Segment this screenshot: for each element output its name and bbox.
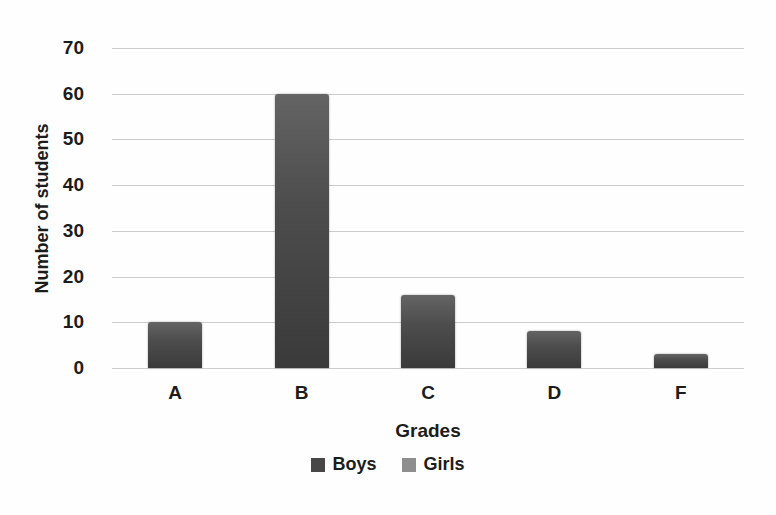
legend-swatch-boys — [311, 458, 325, 472]
y-tick-label-30: 30 — [63, 219, 84, 241]
y-tick-label-70: 70 — [63, 37, 84, 59]
x-tick-label-b: B — [295, 382, 309, 404]
y-tick-label-0: 0 — [73, 357, 84, 379]
bar-a — [148, 322, 202, 368]
plot-area — [112, 48, 744, 368]
bar-b — [275, 94, 329, 368]
gridline-y-60 — [112, 94, 744, 95]
bar-c — [401, 295, 455, 368]
legend-label-girls: Girls — [423, 454, 464, 475]
gridline-y-20 — [112, 277, 744, 278]
gridline-y-50 — [112, 139, 744, 140]
x-tick-label-f: F — [675, 382, 687, 404]
x-tick-label-c: C — [421, 382, 435, 404]
legend-item-boys: Boys — [311, 454, 376, 475]
gridline-y-30 — [112, 231, 744, 232]
y-tick-label-50: 50 — [63, 128, 84, 150]
x-axis-title: Grades — [112, 420, 744, 442]
y-tick-label-40: 40 — [63, 174, 84, 196]
y-tick-label-20: 20 — [63, 265, 84, 287]
legend-swatch-girls — [402, 458, 416, 472]
y-tick-label-10: 10 — [63, 311, 84, 333]
bar-d — [527, 331, 581, 368]
y-axis-ticks: 010203040506070 — [0, 48, 98, 368]
chart-legend: BoysGirls — [0, 454, 776, 475]
x-axis-labels: ABCDF — [112, 382, 744, 410]
gridline-y-0 — [112, 368, 744, 369]
y-tick-label-60: 60 — [63, 82, 84, 104]
legend-item-girls: Girls — [402, 454, 464, 475]
x-tick-label-a: A — [168, 382, 182, 404]
bar-f — [654, 354, 708, 368]
bar-chart-figure: Number of students 010203040506070 ABCDF… — [0, 0, 776, 515]
legend-label-boys: Boys — [332, 454, 376, 475]
gridline-y-70 — [112, 48, 744, 49]
x-tick-label-d: D — [548, 382, 562, 404]
gridline-y-40 — [112, 185, 744, 186]
